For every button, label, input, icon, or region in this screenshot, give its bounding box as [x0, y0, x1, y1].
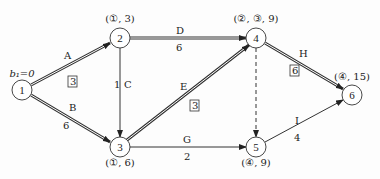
edge-label-G: G	[183, 134, 191, 145]
edge-label-D: D	[176, 25, 184, 36]
node-5: 5	[246, 137, 266, 157]
edge-label-A: A	[63, 50, 72, 61]
edge-label-C: C	[124, 79, 132, 90]
edge-label-B: B	[69, 102, 76, 113]
node-6: 6	[342, 85, 362, 105]
edge-weight-I: 4	[294, 132, 300, 143]
edge-weight-E: 3	[192, 100, 198, 111]
edge-label-E: E	[180, 81, 187, 92]
node-6-label: (④, 15)	[334, 71, 370, 82]
edge-weight-C: 1	[114, 79, 120, 90]
edge-I	[265, 100, 343, 142]
edge-weight-B: 6	[63, 120, 69, 131]
edge-weight-H: 6	[292, 65, 298, 76]
diagram-canvas: A 3 B 6 1 C D 6 E 3 G 2 H 6 I 4 1 2 3 4 …	[0, 0, 380, 179]
svg-text:1: 1	[19, 84, 25, 96]
svg-text:5: 5	[253, 141, 259, 153]
node-2: 2	[110, 28, 130, 48]
svg-text:6: 6	[349, 89, 355, 101]
node-5-label: (④, 9)	[241, 157, 271, 168]
edge-weight-G: 2	[184, 151, 190, 162]
svg-text:4: 4	[253, 32, 259, 44]
edge-weight-D: 6	[176, 42, 182, 53]
node-4: 4	[246, 28, 266, 48]
svg-text:2: 2	[117, 32, 123, 44]
edge-label-I: I	[295, 115, 299, 126]
svg-text:3: 3	[117, 141, 123, 153]
network-diagram: A 3 B 6 1 C D 6 E 3 G 2 H 6 I 4 1 2 3 4 …	[0, 0, 380, 179]
edge-E	[127, 45, 249, 140]
node-4-label: (②, ③, 9)	[234, 13, 279, 24]
edge-label-H: H	[299, 48, 308, 59]
start-label: b₁=0	[9, 68, 35, 79]
node-1: 1	[12, 80, 32, 100]
node-3: 3	[110, 137, 130, 157]
node-3-label: (①, 6)	[105, 157, 135, 168]
node-2-label: (①, 3)	[105, 13, 135, 24]
edge-weight-A: 3	[70, 76, 76, 87]
